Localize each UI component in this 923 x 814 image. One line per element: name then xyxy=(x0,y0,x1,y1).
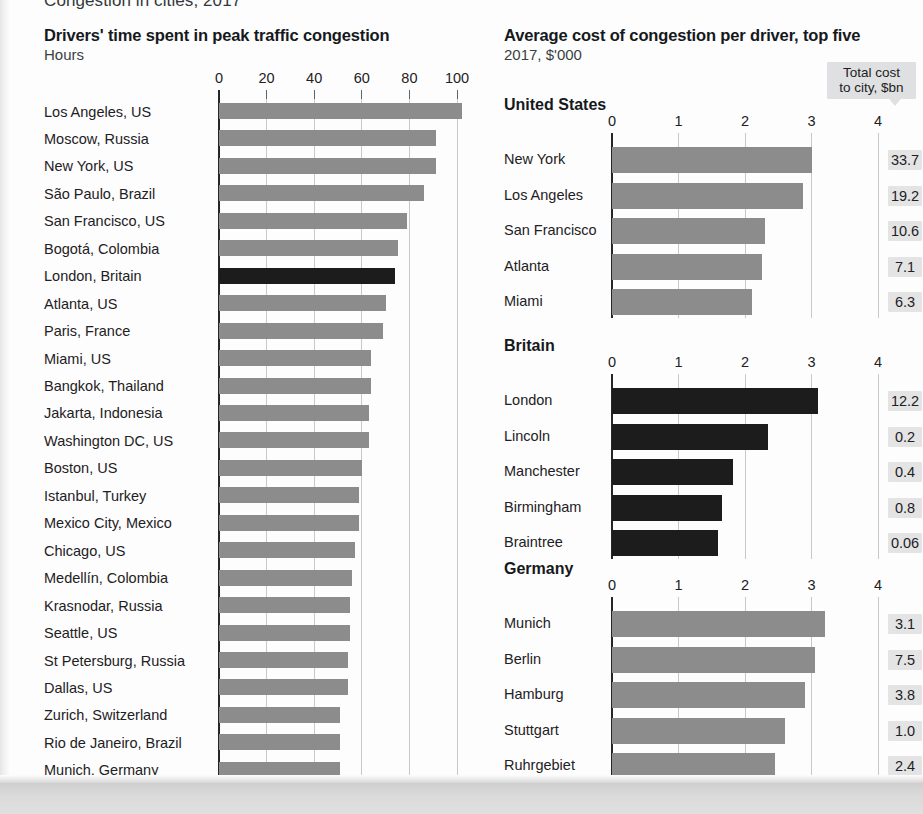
total-cost-callout: Total cost to city, $bn xyxy=(827,62,916,99)
x-axis-tick-mark xyxy=(314,90,315,99)
x-axis-tick-label: 4 xyxy=(874,113,882,129)
bar-grey xyxy=(612,647,815,673)
bar-category-label: Medellín, Colombia xyxy=(44,570,168,586)
total-cost-callout-line2: to city, $bn xyxy=(832,80,911,95)
x-axis-tick-label: 20 xyxy=(259,70,275,86)
bar-category-label: Bangkok, Thailand xyxy=(44,378,164,394)
bar-category-label: London, Britain xyxy=(44,268,142,284)
x-axis-tick-label: 3 xyxy=(807,354,815,370)
x-axis-tick-label: 0 xyxy=(608,113,616,129)
right-chart-subtitle: 2017, $'000 xyxy=(504,46,582,63)
x-axis-tick-mark xyxy=(361,90,362,99)
bar-category-label: Munich xyxy=(504,615,551,631)
bar-grey xyxy=(219,570,352,586)
bar-category-label: Seattle, US xyxy=(44,625,117,641)
bar-category-label: Los Angeles xyxy=(504,187,583,203)
bar-category-label: Chicago, US xyxy=(44,543,125,559)
total-cost-value: 7.5 xyxy=(888,650,922,670)
bar-grey xyxy=(612,682,805,708)
x-axis-tick-label: 1 xyxy=(674,577,682,593)
bar-category-label: Berlin xyxy=(504,651,541,667)
bar-grey xyxy=(219,130,436,146)
bar-grey xyxy=(219,597,350,613)
bar-category-label: London xyxy=(504,392,552,408)
bar-dark xyxy=(612,459,733,485)
bar-category-label: New York, US xyxy=(44,158,133,174)
x-axis-tick-label: 1 xyxy=(674,354,682,370)
bar-category-label: Bogotá, Colombia xyxy=(44,241,159,257)
total-cost-value: 0.06 xyxy=(888,533,922,553)
bar-category-label: San Francisco, US xyxy=(44,213,165,229)
left-chart-subtitle: Hours xyxy=(44,46,84,63)
x-axis-tick-label: 0 xyxy=(215,70,223,86)
bar-grey xyxy=(219,103,462,119)
total-cost-value: 19.2 xyxy=(888,186,922,206)
bar-dark xyxy=(612,495,722,521)
bar-grey xyxy=(219,707,340,723)
x-axis-tick-label: 2 xyxy=(741,577,749,593)
bar-grey xyxy=(219,185,424,201)
bar-grey xyxy=(612,218,765,244)
x-axis-tick-label: 100 xyxy=(445,70,469,86)
left-chart-title: Drivers' time spent in peak traffic cong… xyxy=(44,26,389,45)
x-axis-tick-mark xyxy=(457,90,458,99)
x-axis-gridline xyxy=(878,597,879,782)
total-cost-value: 6.3 xyxy=(888,292,922,312)
bar-category-label: Manchester xyxy=(504,463,580,479)
bar-dark xyxy=(219,268,395,284)
bar-grey xyxy=(219,460,362,476)
right-chart-panel: Average cost of congestion per driver, t… xyxy=(492,0,923,783)
total-cost-value: 0.2 xyxy=(888,427,922,447)
x-axis-tick-label: 1 xyxy=(674,113,682,129)
total-cost-value: 0.8 xyxy=(888,498,922,518)
total-cost-value: 0.4 xyxy=(888,462,922,482)
page-edge-bottom xyxy=(0,775,923,783)
bar-category-label: Zurich, Switzerland xyxy=(44,707,167,723)
x-axis-tick-label: 4 xyxy=(874,577,882,593)
x-axis-tick-mark xyxy=(266,90,267,99)
bar-category-label: São Paulo, Brazil xyxy=(44,186,155,202)
total-cost-value: 3.1 xyxy=(888,614,922,634)
x-axis-tick-label: 3 xyxy=(807,113,815,129)
bar-category-label: New York xyxy=(504,151,565,167)
section-heading-britain: Britain xyxy=(504,337,555,355)
bar-dark xyxy=(612,388,818,414)
bar-category-label: Paris, France xyxy=(44,323,130,339)
bar-grey xyxy=(219,515,359,531)
bar-grey xyxy=(219,378,371,394)
bar-category-label: Krasnodar, Russia xyxy=(44,598,162,614)
total-cost-value: 12.2 xyxy=(888,391,922,411)
bar-grey xyxy=(219,487,359,503)
bar-category-label: Braintree xyxy=(504,534,563,550)
bar-grey xyxy=(612,718,785,744)
bar-category-label: Birmingham xyxy=(504,499,581,515)
bar-category-label: Miami xyxy=(504,293,543,309)
bar-category-label: Istanbul, Turkey xyxy=(44,488,146,504)
bar-grey xyxy=(612,254,762,280)
section-heading-united-states: United States xyxy=(504,96,606,114)
x-axis-tick-label: 60 xyxy=(354,70,370,86)
bar-grey xyxy=(219,432,369,448)
total-cost-value: 1.0 xyxy=(888,721,922,741)
x-axis-gridline xyxy=(878,133,879,318)
bar-category-label: Boston, US xyxy=(44,460,117,476)
bar-grey xyxy=(219,323,383,339)
x-axis-gridline xyxy=(457,99,458,782)
x-axis-gridline xyxy=(409,99,410,782)
x-axis-tick-mark xyxy=(409,90,410,99)
bar-grey xyxy=(219,679,348,695)
left-chart-panel: Drivers' time spent in peak traffic cong… xyxy=(0,0,492,783)
bar-dark xyxy=(612,424,768,450)
bar-category-label: Ruhrgebiet xyxy=(504,757,575,773)
bar-grey xyxy=(219,158,436,174)
bar-category-label: Lincoln xyxy=(504,428,550,444)
bar-grey xyxy=(219,213,407,229)
x-axis-tick-label: 0 xyxy=(608,577,616,593)
total-cost-value: 7.1 xyxy=(888,257,922,277)
bar-category-label: Rio de Janeiro, Brazil xyxy=(44,735,182,751)
x-axis-tick-label: 40 xyxy=(306,70,322,86)
bar-grey xyxy=(219,240,398,256)
total-cost-callout-line1: Total cost xyxy=(832,65,911,80)
section-heading-germany: Germany xyxy=(504,560,573,578)
x-axis-tick-label: 4 xyxy=(874,354,882,370)
